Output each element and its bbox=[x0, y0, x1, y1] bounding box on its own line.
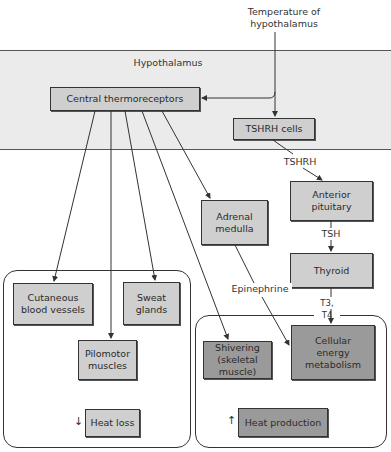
input-label-temperature: Temperature of hypothalamus bbox=[236, 6, 332, 30]
node-adrenal-medulla: Adrenal medulla bbox=[201, 200, 268, 245]
node-pilomotor-muscles: Pilomotor muscles bbox=[78, 340, 137, 380]
node-shivering: Shivering (skeletal muscle) bbox=[203, 341, 272, 379]
edge-label-tsh: TSH bbox=[315, 228, 347, 240]
node-sweat-glands: Sweat glands bbox=[123, 282, 180, 325]
node-heat-loss: Heat loss bbox=[85, 409, 140, 437]
increase-arrow-icon: ↑ bbox=[227, 414, 236, 427]
edge-label-t3-t4: T3, T4 bbox=[314, 297, 340, 321]
decrease-arrow-icon: ↓ bbox=[74, 415, 83, 428]
node-central-thermoreceptors: Central thermoreceptors bbox=[50, 87, 200, 111]
node-tshrh-cells: TSHRH cells bbox=[233, 118, 315, 140]
node-cutaneous-blood-vessels: Cutaneous blood vessels bbox=[13, 283, 93, 325]
edge-label-tshrh: TSHRH bbox=[280, 156, 320, 168]
region-label-hypothalamus: Hypothalamus bbox=[128, 57, 208, 69]
edge-label-epinephrine: Epinephrine bbox=[228, 283, 292, 295]
node-cellular-energy-metabolism: Cellular energy metabolism bbox=[291, 325, 375, 380]
node-heat-production: Heat production bbox=[238, 408, 328, 437]
node-thyroid: Thyroid bbox=[290, 253, 373, 288]
node-anterior-pituitary: Anterior pituitary bbox=[290, 181, 373, 221]
